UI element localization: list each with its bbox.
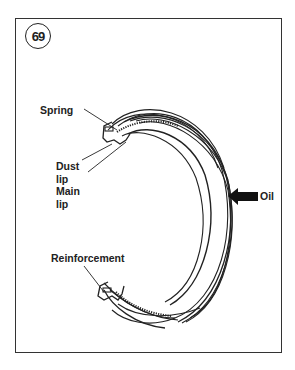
label-spring: Spring: [40, 104, 73, 117]
oil-seal-illustration: [0, 0, 295, 370]
label-oil: Oil: [260, 190, 274, 203]
label-main-lip-line2: lip: [56, 198, 68, 211]
label-dust-lip-line1: Dust: [56, 160, 79, 173]
label-main-lip-line1: Main: [56, 185, 80, 198]
left-arrow-icon: [228, 188, 258, 205]
label-reinforcement: Reinforcement: [51, 252, 125, 265]
